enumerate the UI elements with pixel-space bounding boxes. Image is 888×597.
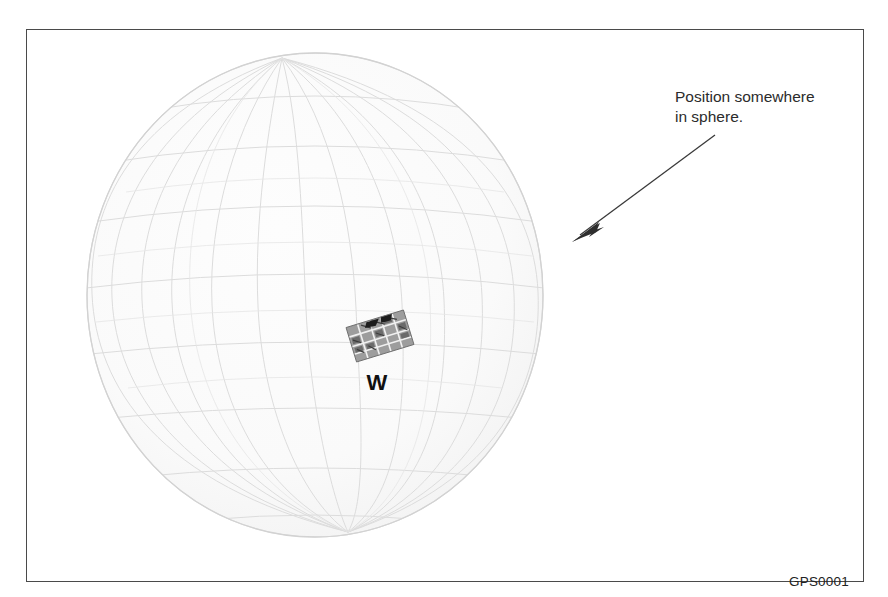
- callout-arrow: [555, 126, 735, 256]
- street-map-patch: [341, 307, 419, 365]
- sphere-grid: [86, 58, 544, 532]
- sphere-parallels: [86, 96, 544, 520]
- position-marker-label: W: [357, 372, 397, 394]
- street-map-patch-svg: [341, 307, 419, 365]
- arrow-head-fill: [572, 223, 600, 242]
- figure-frame: W Position somewhere in sphere. GPS0001: [26, 29, 864, 582]
- sphere-globe: [86, 52, 546, 538]
- callout-arrow-svg: [555, 126, 735, 256]
- sphere-wireframe-svg: [86, 52, 546, 538]
- sphere-meridians: [92, 58, 539, 532]
- figure-root: W Position somewhere in sphere. GPS0001: [0, 0, 888, 597]
- figure-id-label: GPS0001: [789, 574, 849, 589]
- callout-text: Position somewhere in sphere.: [675, 87, 875, 127]
- sphere-body: [87, 53, 543, 537]
- arrow-shaft: [580, 135, 715, 235]
- sphere-outline: [87, 53, 543, 537]
- arrow-head: [572, 222, 604, 242]
- sphere-backface-lines: [96, 58, 534, 532]
